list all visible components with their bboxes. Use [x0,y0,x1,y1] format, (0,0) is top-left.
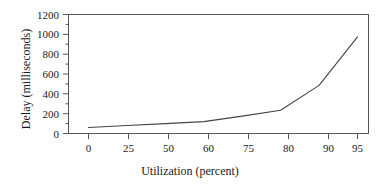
x-axis-title: Utilization (percent) [0,165,380,177]
y-axis-title: Delay (milliseconds) [20,9,32,149]
data-series-delay [89,37,358,128]
x-tick-label-75: 75 [243,143,254,154]
x-tick-label-80: 80 [283,143,294,154]
x-tick-label-60: 60 [203,143,214,154]
x-tick-label-90: 90 [323,143,334,154]
x-axis-tick-marks [89,134,358,140]
x-tick-label-50: 50 [163,143,174,154]
axis-frame [69,15,369,134]
x-tick-label-25: 25 [123,143,134,154]
x-tick-label-0: 0 [86,143,92,154]
delay-line [89,37,358,128]
delay-vs-utilization-chart: 0 200 400 600 800 1000 1200 0 25 50 60 7… [0,0,380,186]
y-axis-tick-marks [63,15,69,134]
x-tick-label-95: 95 [352,143,363,154]
